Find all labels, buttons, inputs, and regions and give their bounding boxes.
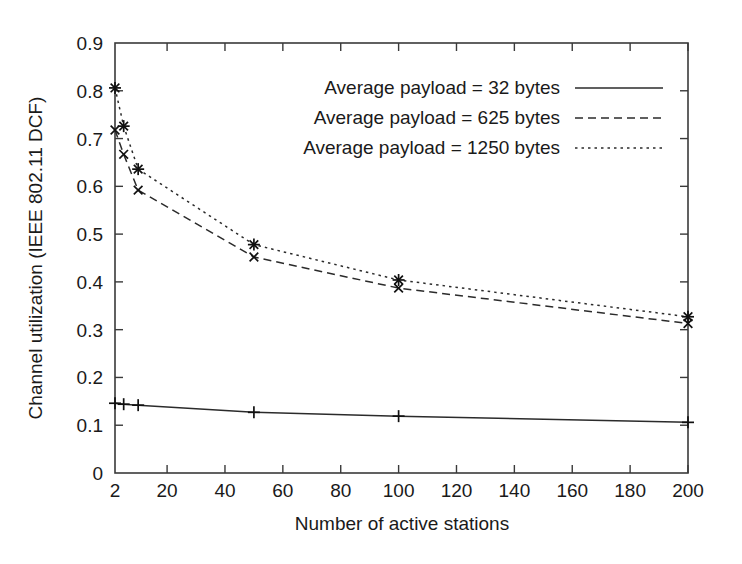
data-series-group — [109, 82, 694, 428]
y-tick-label: 0.7 — [77, 129, 103, 150]
series-line — [115, 403, 688, 422]
x-tick-label: 20 — [157, 480, 178, 501]
x-tick-label: 80 — [330, 480, 351, 501]
x-tick-label: 160 — [556, 480, 588, 501]
x-tick-label: 2 — [110, 480, 121, 501]
y-axis-tick-labels: 00.10.20.30.40.50.60.70.80.9 — [77, 33, 104, 484]
y-tick-label: 0.9 — [77, 33, 103, 54]
x-axis-tick-labels: 220406080100120140160180200 — [110, 480, 704, 501]
y-tick-label: 0.6 — [77, 176, 103, 197]
y-axis-title: Channel utilization (IEEE 802.11 DCF) — [25, 97, 46, 420]
y-tick-label: 0.4 — [77, 272, 104, 293]
chart-figure: 220406080100120140160180200 00.10.20.30.… — [0, 0, 742, 564]
y-tick-label: 0 — [92, 463, 103, 484]
series-1 — [109, 397, 694, 428]
x-tick-label: 60 — [272, 480, 293, 501]
x-tick-label: 120 — [441, 480, 473, 501]
y-tick-label: 0.3 — [77, 320, 103, 341]
x-tick-label: 200 — [672, 480, 704, 501]
y-tick-label: 0.8 — [77, 81, 103, 102]
y-tick-label: 0.2 — [77, 367, 103, 388]
x-tick-label: 100 — [383, 480, 415, 501]
chart-legend: Average payload = 32 bytesAverage payloa… — [303, 77, 663, 158]
x-tick-label: 40 — [214, 480, 235, 501]
x-tick-label: 180 — [614, 480, 646, 501]
y-tick-label: 0.1 — [77, 415, 103, 436]
x-tick-label: 140 — [499, 480, 531, 501]
legend-label-3: Average payload = 1250 bytes — [303, 137, 560, 158]
legend-label-1: Average payload = 32 bytes — [324, 77, 560, 98]
channel-utilization-line-chart: 220406080100120140160180200 00.10.20.30.… — [0, 0, 742, 564]
series-line — [115, 130, 688, 324]
legend-label-2: Average payload = 625 bytes — [314, 107, 560, 128]
y-tick-label: 0.5 — [77, 224, 103, 245]
x-axis-title: Number of active stations — [295, 513, 509, 534]
